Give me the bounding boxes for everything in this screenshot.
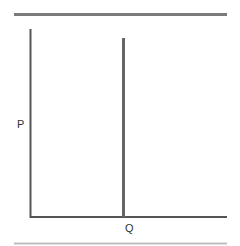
y-axis-label: P bbox=[17, 118, 24, 130]
diagram-canvas: P Q bbox=[0, 0, 240, 246]
x-axis-label: Q bbox=[125, 222, 134, 234]
